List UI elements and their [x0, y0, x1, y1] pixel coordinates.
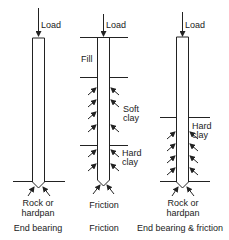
reaction-arrow-icon	[28, 187, 34, 196]
load-label: Load	[106, 20, 126, 30]
caption-friction: Friction	[89, 223, 119, 233]
pile-friction	[80, 14, 128, 194]
hard-clay-label-2: clay	[192, 130, 208, 140]
fill-label: Fill	[81, 54, 93, 64]
caption-end-bearing-friction: End bearing & friction	[137, 223, 223, 233]
load-label: Load	[185, 20, 205, 30]
load-label: Load	[41, 20, 61, 30]
soft-clay-label-2: clay	[123, 113, 139, 123]
rock-label: Rock or	[167, 198, 198, 208]
reaction-arrow-icon	[43, 187, 50, 196]
pile-shaft	[177, 37, 189, 188]
pile-end-bearing-friction	[160, 12, 210, 196]
hard-clay-label-2: clay	[122, 157, 138, 167]
pile-types-diagram: Load Rock or hardpan End bearing Load Fi…	[0, 0, 229, 240]
pile-shaft	[98, 37, 110, 186]
caption-end-bearing: End bearing	[14, 223, 63, 233]
rock-label: Rock or	[22, 198, 53, 208]
hardpan-label: hardpan	[21, 208, 54, 218]
friction-tip-label: Friction	[89, 200, 119, 210]
pile-shaft	[33, 38, 45, 188]
pile-end-bearing	[13, 8, 65, 196]
hardpan-label: hardpan	[166, 208, 199, 218]
